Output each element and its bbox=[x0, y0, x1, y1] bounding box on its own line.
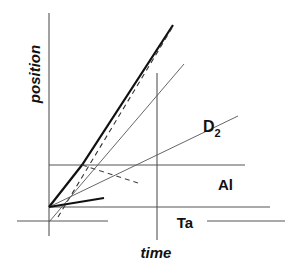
short-thick-ray bbox=[49, 198, 104, 207]
shock-trajectory-thick bbox=[49, 25, 173, 207]
y-axis-label: position bbox=[26, 45, 43, 104]
region-label-ta: Ta bbox=[177, 214, 194, 231]
region-label-d2: D2 bbox=[203, 118, 221, 139]
xt-diagram: position time D2 Al Ta bbox=[0, 0, 298, 279]
region-label-al: Al bbox=[218, 176, 233, 193]
dashed-trajectory bbox=[58, 28, 172, 217]
x-axis-label: time bbox=[141, 244, 172, 261]
thin-trajectory-upper bbox=[49, 64, 184, 222]
